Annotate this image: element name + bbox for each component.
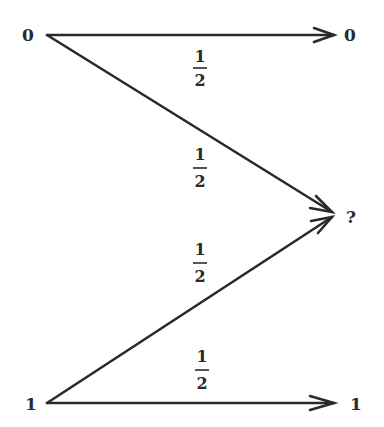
prob-label-0-0: 1 2 (193, 47, 207, 90)
svg-text:1: 1 (196, 347, 207, 366)
svg-text:2: 2 (194, 71, 205, 90)
svg-text:1: 1 (194, 240, 205, 259)
channel-diagram: 0 1 0 ? 1 1 2 1 2 1 2 1 2 (0, 0, 384, 427)
prob-label-0-erasure: 1 2 (193, 145, 207, 191)
edge-0-to-erasure (47, 35, 332, 212)
prob-label-1-1: 1 2 (195, 347, 209, 393)
output-label-1: 1 (350, 394, 362, 414)
svg-text:1: 1 (194, 47, 205, 66)
edge-1-to-erasure (47, 217, 332, 403)
svg-text:1: 1 (194, 145, 205, 164)
input-label-1: 1 (25, 394, 37, 414)
svg-text:2: 2 (194, 172, 205, 191)
output-label-erasure: ? (346, 207, 356, 227)
diagram-canvas: 0 1 0 ? 1 1 2 1 2 1 2 1 2 (0, 0, 384, 427)
prob-label-1-erasure: 1 2 (193, 240, 207, 286)
input-label-0: 0 (22, 25, 34, 45)
svg-text:2: 2 (194, 267, 205, 286)
svg-text:2: 2 (196, 374, 207, 393)
output-label-0: 0 (344, 25, 356, 45)
